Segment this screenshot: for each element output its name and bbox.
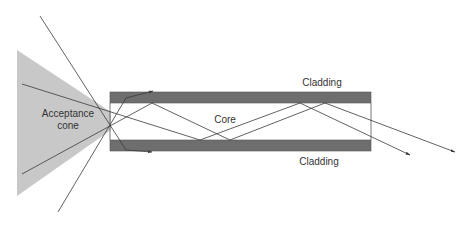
cladding-top-bar: [110, 92, 371, 103]
cladding-top-label: Cladding: [292, 77, 352, 89]
cladding-bottom-bar: [110, 140, 371, 151]
core-label: Core: [205, 114, 245, 126]
cladding-bottom-label: Cladding: [289, 156, 349, 168]
acceptance-cone-label: Acceptance cone: [38, 108, 98, 132]
